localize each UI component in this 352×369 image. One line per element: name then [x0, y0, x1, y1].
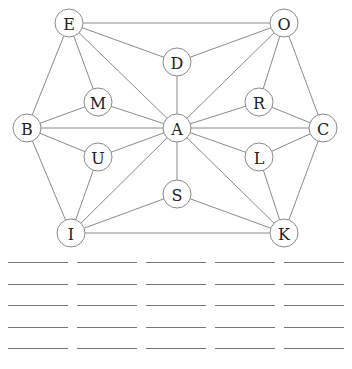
answer-row	[8, 305, 344, 327]
answer-blank-line[interactable]	[146, 284, 206, 285]
answer-blank-line[interactable]	[215, 327, 275, 328]
node-label: E	[63, 15, 75, 34]
answer-blank-line[interactable]	[77, 305, 137, 306]
answer-blank-line[interactable]	[146, 348, 206, 349]
edge-S-K	[177, 194, 284, 233]
answer-blank-line[interactable]	[215, 348, 275, 349]
node-label: B	[21, 120, 33, 139]
answer-blank-line[interactable]	[215, 305, 275, 306]
node-label: C	[317, 120, 329, 139]
node-K: K	[270, 219, 298, 247]
node-label: L	[254, 149, 265, 168]
edge-E-A	[69, 23, 177, 128]
answer-row	[8, 327, 344, 349]
node-label: D	[171, 54, 184, 73]
node-A: A	[163, 114, 191, 142]
answer-blank-line[interactable]	[8, 262, 68, 263]
answer-blank-line[interactable]	[284, 305, 344, 306]
answer-blank-line[interactable]	[77, 262, 137, 263]
edge-E-B	[27, 23, 69, 128]
answer-blank-line[interactable]	[284, 327, 344, 328]
answer-blank-line[interactable]	[215, 262, 275, 263]
answer-blank-line[interactable]	[284, 284, 344, 285]
node-label: A	[170, 120, 183, 139]
answer-row	[8, 348, 344, 369]
node-label: K	[278, 225, 291, 244]
node-label: R	[253, 94, 266, 113]
edge-E-D	[69, 23, 177, 62]
node-D: D	[163, 48, 191, 76]
answer-blank-line[interactable]	[77, 327, 137, 328]
edge-O-D	[177, 23, 284, 62]
node-C: C	[309, 114, 337, 142]
node-U: U	[84, 143, 112, 171]
answer-blank-line[interactable]	[146, 305, 206, 306]
answer-blank-line[interactable]	[284, 262, 344, 263]
answer-blank-line[interactable]	[284, 348, 344, 349]
answer-blanks	[8, 262, 344, 369]
node-M: M	[84, 88, 112, 116]
node-S: S	[163, 180, 191, 208]
answer-blank-line[interactable]	[8, 305, 68, 306]
answer-blank-line[interactable]	[77, 284, 137, 285]
answer-blank-line[interactable]	[146, 327, 206, 328]
node-I: I	[57, 219, 85, 247]
edge-A-K	[177, 128, 284, 233]
node-B: B	[13, 114, 41, 142]
node-label: U	[91, 149, 104, 168]
letter-graph-diagram: EODMRBACULSIK	[0, 0, 352, 250]
answer-blank-line[interactable]	[77, 348, 137, 349]
node-label: O	[277, 15, 290, 34]
answer-row	[8, 262, 344, 284]
node-R: R	[245, 88, 273, 116]
edge-O-C	[284, 23, 323, 128]
answer-row	[8, 284, 344, 306]
edge-S-I	[71, 194, 177, 233]
node-O: O	[270, 9, 298, 37]
answer-blank-line[interactable]	[8, 284, 68, 285]
node-label: M	[90, 94, 106, 113]
answer-blank-line[interactable]	[215, 284, 275, 285]
answer-blank-line[interactable]	[8, 327, 68, 328]
node-L: L	[245, 143, 273, 171]
node-label: I	[68, 225, 74, 244]
edge-C-K	[284, 128, 323, 233]
node-label: S	[172, 186, 183, 205]
node-E: E	[55, 9, 83, 37]
answer-blank-line[interactable]	[146, 262, 206, 263]
edge-A-I	[71, 128, 177, 233]
answer-blank-line[interactable]	[8, 348, 68, 349]
